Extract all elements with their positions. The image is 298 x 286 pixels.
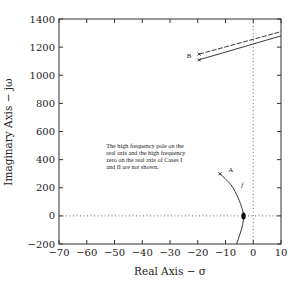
y-tick-label: 0 [49, 210, 55, 221]
annotations: ABfThe high frequency pole on thereal ax… [106, 52, 244, 189]
x-tick-label: 10 [275, 247, 288, 258]
curve-label-B: B [187, 52, 192, 60]
operating-point-marker [241, 212, 245, 219]
axis-ticks [59, 19, 281, 244]
series-line-0 [220, 174, 244, 244]
curve-label-A: A [228, 166, 233, 174]
x-tick-label: −10 [215, 247, 236, 258]
y-tick-label: 1000 [30, 70, 55, 81]
y-tick-label: 1200 [30, 42, 55, 53]
series-group [198, 32, 281, 244]
note-line: zero on the real axis of Cases I [106, 156, 182, 163]
reference-lines [59, 19, 281, 244]
series-line-1 [199, 32, 281, 55]
x-tick-labels: −70−60−50−40−30−20−10010 [48, 247, 287, 258]
y-tick-label: 800 [36, 98, 55, 109]
note-line: and II are not shown. [106, 163, 159, 170]
y-tick-label: 1400 [30, 14, 55, 25]
x-tick-label: −30 [159, 247, 180, 258]
y-tick-label: 600 [36, 126, 55, 137]
y-axis-title: Imaginary Axis − jω [2, 78, 14, 186]
plot-frame [59, 19, 281, 244]
y-tick-label: 400 [36, 154, 55, 165]
note-text: The high frequency pole on thereal axis … [106, 142, 186, 170]
x-tick-label: −20 [187, 247, 208, 258]
x-tick-label: 0 [250, 247, 256, 258]
y-tick-label: 200 [36, 182, 55, 193]
series-line-2 [199, 36, 281, 60]
note-line: The high frequency pole on the [106, 142, 184, 149]
x-tick-label: −40 [132, 247, 153, 258]
series-start-marker [218, 172, 221, 175]
y-tick-label: −200 [28, 239, 55, 250]
x-axis-title: Real Axis − σ [134, 265, 206, 277]
note-line: real axis and the high frequency [106, 149, 186, 156]
curve-label-f: f [241, 181, 244, 189]
x-tick-label: −50 [104, 247, 125, 258]
x-tick-label: −60 [76, 247, 97, 258]
root-locus-chart: −70−60−50−40−30−20−10010 −20002004006008… [0, 0, 298, 286]
y-tick-labels: −2000200400600800100012001400 [28, 14, 55, 250]
